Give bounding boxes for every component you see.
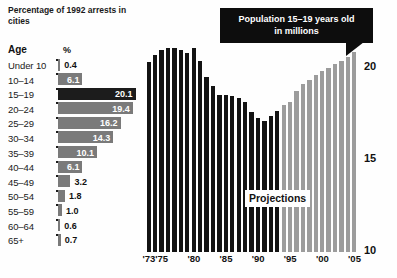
age-group-label: 25–29: [8, 118, 34, 129]
arrests-table-panel: Percentage of 1992 arrests in cities Age…: [0, 0, 142, 278]
bar-container: 6.1: [58, 73, 82, 85]
population-bar: [301, 84, 305, 252]
x-axis-tick-label: '00: [316, 253, 329, 264]
table-row: 20–2419.4: [0, 102, 142, 117]
percentage-bar: [58, 234, 61, 246]
population-bar: [179, 50, 183, 252]
population-bar: [256, 118, 260, 252]
age-group-label: 15–19: [8, 89, 34, 100]
population-bar: [198, 61, 202, 253]
age-group-label: 30–34: [8, 133, 34, 144]
population-bar: [237, 98, 241, 252]
age-group-label: 55–59: [8, 206, 34, 217]
percentage-value: 20.1: [115, 89, 133, 99]
bar-container: 16.2: [58, 117, 121, 129]
bar-container: 20.1: [58, 88, 136, 100]
percentage-value: 0.4: [64, 60, 77, 70]
table-row: 25–2916.2: [0, 116, 142, 131]
callout-line-1: Population 15–19 years old: [224, 13, 369, 25]
y-axis-tick-label: 15: [364, 152, 376, 164]
percentage-value: 6.1: [67, 75, 80, 85]
table-row: 65+0.7: [0, 233, 142, 248]
population-bar: [282, 105, 286, 252]
population-bar: [172, 48, 176, 252]
population-bar: [326, 68, 330, 252]
column-header-age: Age: [8, 44, 27, 55]
y-axis-tick-label: 10: [364, 244, 376, 256]
percentage-value: 0.7: [65, 235, 78, 245]
percentage-value: 6.1: [67, 162, 80, 172]
percentage-value: 19.4: [112, 104, 130, 114]
x-axis-ticks: '73'75'80'85'90'95'00'05: [146, 253, 358, 269]
table-row: 35–3910.1: [0, 146, 142, 161]
chart-title-callout: Population 15–19 years old in millions: [220, 8, 373, 43]
population-bar: [314, 75, 318, 252]
percentage-value: 14.3: [93, 133, 111, 143]
age-group-label: 35–39: [8, 148, 34, 159]
x-axis-tick-label: '80: [188, 253, 201, 264]
percentage-value: 16.2: [100, 118, 118, 128]
population-bar: [159, 50, 163, 252]
population-bar: [275, 111, 279, 252]
arrests-rows: Under 100.410–146.115–1920.120–2419.425–…: [0, 58, 142, 248]
infographic-root: Percentage of 1992 arrests in cities Age…: [0, 0, 397, 278]
table-column-headers: Age %: [8, 44, 138, 57]
table-row: Under 100.4: [0, 58, 142, 73]
percentage-bar: [58, 204, 62, 216]
percentage-value: 1.0: [66, 206, 79, 216]
bar-container: 6.1: [58, 161, 82, 173]
projections-annotation: Projections: [245, 190, 310, 207]
population-bar: [288, 102, 292, 252]
table-row: 45–493.2: [0, 175, 142, 190]
population-bar: [204, 77, 208, 252]
percentage-value: 10.1: [76, 148, 94, 158]
population-bar: [346, 57, 350, 252]
population-bar: [320, 71, 324, 252]
percentage-value: 1.8: [69, 191, 82, 201]
table-row: 55–591.0: [0, 204, 142, 219]
age-group-label: 10–14: [8, 75, 34, 86]
x-axis-tick-label: '73: [143, 253, 156, 264]
population-bar: [166, 48, 170, 252]
age-group-label: 50–54: [8, 191, 34, 202]
age-group-label: 65+: [8, 235, 24, 246]
population-bar: [339, 61, 343, 253]
percentage-bar: [58, 59, 60, 71]
age-group-label: 40–44: [8, 162, 34, 173]
column-header-percent: %: [63, 45, 71, 55]
age-group-label: 45–49: [8, 177, 34, 188]
age-group-label: Under 10: [8, 60, 46, 71]
age-group-label: 20–24: [8, 104, 34, 115]
population-bar: [224, 95, 228, 253]
population-chart-panel: Population 15–19 years old in millions P…: [142, 0, 397, 278]
population-bar: [294, 91, 298, 252]
population-bar: [192, 48, 196, 252]
population-bar: [269, 116, 273, 252]
table-row: 60–640.6: [0, 219, 142, 234]
percentage-value: 0.6: [64, 221, 77, 231]
table-row: 50–541.8: [0, 189, 142, 204]
x-axis-tick-label: '90: [252, 253, 265, 264]
bar-container: 10.1: [58, 146, 97, 158]
y-axis-tick-label: 20: [364, 60, 376, 72]
table-row: 15–1920.1: [0, 87, 142, 102]
x-axis-tick-label: '85: [220, 253, 233, 264]
table-row: 30–3414.3: [0, 131, 142, 146]
population-bar: [243, 102, 247, 252]
x-axis-tick-label: '75: [155, 253, 168, 264]
bar-container: 19.4: [58, 102, 133, 114]
population-bars: [146, 48, 358, 252]
percentage-bar: [58, 219, 60, 231]
bar-container: 14.3: [58, 131, 113, 143]
population-bar: [333, 64, 337, 252]
population-bar: [147, 62, 151, 252]
table-row: 40–446.1: [0, 160, 142, 175]
percentage-bar: [58, 190, 65, 202]
y-axis-ticks: 201510: [360, 48, 396, 258]
population-bar: [249, 112, 253, 252]
population-bar: [262, 121, 266, 252]
x-axis-tick-label: '95: [284, 253, 297, 264]
age-group-label: 60–64: [8, 221, 34, 232]
population-bar: [211, 86, 215, 252]
population-bar: [153, 55, 157, 252]
